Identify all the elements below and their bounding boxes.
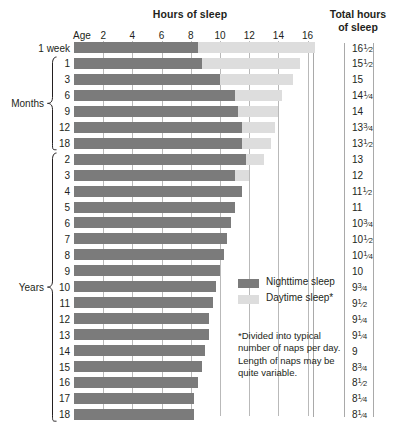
bar-nighttime-7 (74, 154, 246, 165)
total-hours-10: 11 (352, 202, 362, 213)
total-hours-18: 91⁄4 (352, 330, 367, 342)
age-label-1: 1 (0, 58, 70, 69)
bar-daytime-1 (202, 58, 301, 69)
x-tick-12: 12 (244, 30, 255, 41)
x-tick-10: 10 (214, 30, 225, 41)
total-hours-13: 101⁄4 (352, 250, 373, 262)
legend-swatch-nighttime (238, 279, 259, 288)
bar-daytime-6 (242, 138, 271, 149)
age-label-19: 14 (0, 346, 70, 357)
x-tick-14: 14 (273, 30, 284, 41)
age-label-11: 6 (0, 218, 70, 229)
age-label-0: 1 week (0, 43, 70, 54)
x-tick-8: 8 (188, 30, 194, 41)
total-title-line-2: of sleep (338, 21, 378, 33)
legend-label-nighttime: Nighttime sleep (266, 276, 335, 287)
chart-title-hours-of-sleep: Hours of sleep (153, 8, 227, 20)
bar-nighttime-18 (74, 329, 209, 340)
group-brace-years (46, 152, 58, 422)
bar-nighttime-11 (74, 217, 231, 228)
age-label-8: 3 (0, 170, 70, 181)
bar-nighttime-3 (74, 90, 235, 101)
bar-nighttime-19 (74, 345, 205, 356)
age-label-20: 15 (0, 362, 70, 373)
age-label-9: 4 (0, 186, 70, 197)
total-hours-4: 14 (352, 106, 363, 117)
bar-daytime-7 (246, 154, 264, 165)
total-hours-20: 83⁄4 (352, 362, 367, 374)
bar-nighttime-15 (74, 281, 216, 292)
age-label-5: 12 (0, 122, 70, 133)
group-label-years: Years (0, 281, 44, 292)
bar-nighttime-12 (74, 233, 227, 244)
bar-nighttime-10 (74, 202, 235, 213)
x-tick-6: 6 (159, 30, 165, 41)
total-hours-16: 91⁄2 (352, 298, 367, 310)
age-label-7: 2 (0, 154, 70, 165)
age-label-16: 11 (0, 298, 70, 309)
total-hours-14: 10 (352, 266, 363, 277)
bar-nighttime-21 (74, 377, 198, 388)
legend-swatch-daytime (238, 295, 259, 304)
total-hours-23: 81⁄4 (352, 409, 367, 421)
bar-nighttime-4 (74, 106, 238, 117)
bar-nighttime-14 (74, 265, 220, 276)
total-title-line-1: Total hours (330, 8, 386, 20)
total-hours-11: 103⁄4 (352, 218, 373, 230)
total-hours-2: 15 (352, 74, 363, 85)
bar-daytime-4 (238, 106, 278, 117)
age-label-6: 18 (0, 138, 70, 149)
bar-nighttime-6 (74, 138, 242, 149)
bar-daytime-8 (235, 170, 250, 181)
bar-nighttime-23 (74, 409, 194, 420)
age-label-17: 12 (0, 314, 70, 325)
bar-nighttime-1 (74, 58, 202, 69)
total-hours-6: 131⁄2 (352, 138, 373, 150)
column-title-total-hours: Total hours of sleep (330, 8, 386, 33)
age-label-12: 7 (0, 234, 70, 245)
total-hours-12: 101⁄2 (352, 234, 373, 246)
total-hours-8: 12 (352, 170, 363, 181)
column-title-age: Age (73, 30, 91, 41)
bar-nighttime-16 (74, 297, 213, 308)
total-hours-21: 81⁄2 (352, 377, 367, 389)
age-label-21: 16 (0, 377, 70, 388)
total-hours-9: 111⁄2 (352, 186, 372, 198)
age-label-2: 3 (0, 74, 70, 85)
age-label-13: 8 (0, 250, 70, 261)
bar-nighttime-13 (74, 249, 224, 260)
bar-nighttime-5 (74, 122, 242, 133)
x-tick-4: 4 (130, 30, 136, 41)
total-hours-22: 81⁄4 (352, 393, 367, 405)
total-hours-1: 151⁄2 (352, 58, 373, 70)
total-hours-17: 91⁄4 (352, 314, 367, 326)
bar-daytime-3 (235, 90, 282, 101)
group-label-months: Months (0, 98, 44, 109)
bar-daytime-0 (198, 42, 315, 53)
bar-daytime-2 (220, 74, 293, 85)
bar-daytime-5 (242, 122, 275, 133)
total-hours-7: 13 (352, 154, 363, 165)
x-tick-2: 2 (100, 30, 106, 41)
x-tick-16: 16 (302, 30, 313, 41)
group-brace-months (46, 56, 58, 151)
total-hours-15: 93⁄4 (352, 282, 367, 294)
total-hours-0: 161⁄2 (352, 43, 373, 55)
total-hours-3: 141⁄4 (352, 90, 373, 102)
sleep-chart: Hours of sleep Total hours of sleep Age … (0, 0, 417, 429)
bar-nighttime-20 (74, 361, 202, 372)
footnote-text: *Divided into typical number of naps per… (238, 330, 353, 380)
bar-nighttime-0 (74, 42, 198, 53)
age-label-14: 9 (0, 266, 70, 277)
bar-nighttime-9 (74, 186, 242, 197)
bar-nighttime-22 (74, 393, 194, 404)
separator-line-3 (373, 43, 374, 417)
age-label-10: 5 (0, 202, 70, 213)
legend-label-daytime: Daytime sleep* (266, 292, 333, 303)
age-label-22: 17 (0, 393, 70, 404)
bar-nighttime-2 (74, 74, 220, 85)
bar-nighttime-17 (74, 313, 209, 324)
bar-nighttime-8 (74, 170, 235, 181)
total-hours-5: 133⁄4 (352, 122, 373, 134)
age-label-18: 13 (0, 330, 70, 341)
